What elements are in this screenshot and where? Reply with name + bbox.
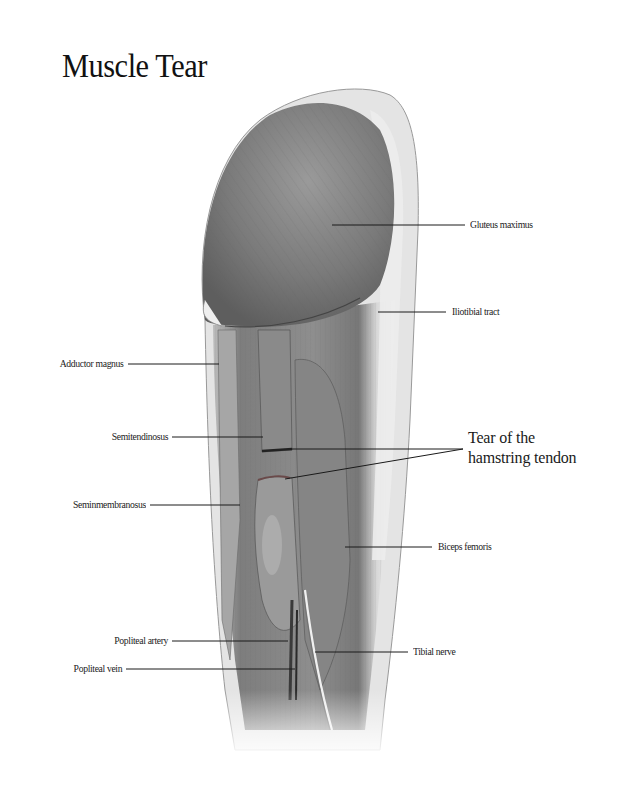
callout-line-2: hamstring tendon [468,448,576,468]
label-adductor-magnus: Adductor magnus [60,357,124,369]
label-semitendinosus: Semitendinosus [112,430,168,442]
callout-hamstring-tear: Tear of the hamstring tendon [468,428,576,468]
label-biceps-femoris: Biceps femoris [438,540,491,552]
popliteal-vessels [290,600,292,700]
page-title: Muscle Tear [62,48,207,85]
label-tibial-nerve: Tibial nerve [413,645,455,657]
anatomy-diagram: Muscle Tear Gluteus maximus Iliotibial t… [0,0,622,789]
semitendinosus-shape [258,330,292,452]
label-iliotibial-tract: Iliotibial tract [452,305,499,317]
label-semimembranosus: Seminmembranosus [73,498,146,510]
callout-line-1: Tear of the [468,428,576,448]
label-popliteal-vein: Popliteal vein [73,662,122,674]
label-gluteus-maximus: Gluteus maximus [470,218,533,230]
label-popliteal-artery: Popliteal artery [114,634,168,646]
